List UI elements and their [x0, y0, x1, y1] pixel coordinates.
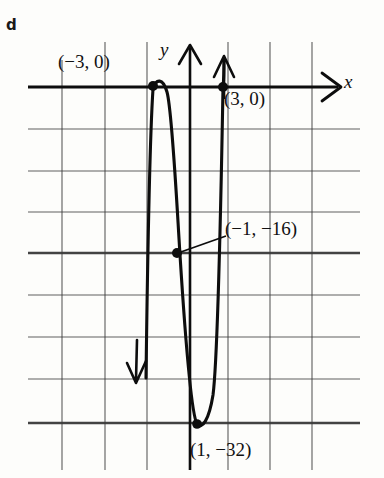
point-label-root-left: (−3, 0): [58, 52, 110, 71]
grid-bold-horizontal-lines: [28, 253, 360, 423]
y-axis-label: y: [160, 40, 168, 59]
marker-minimum: [192, 419, 202, 429]
curve-arrow-down: [127, 340, 146, 383]
point-label-inflection: (−1, −16): [225, 219, 297, 238]
point-label-root-right: (3, 0): [224, 89, 265, 108]
axes: [28, 45, 341, 470]
cubic-curve: [146, 58, 224, 426]
grid-vertical-lines: [62, 42, 312, 470]
part-letter: d: [6, 18, 17, 33]
x-axis-label: x: [344, 72, 352, 91]
graph-figure: d x y (−3, 0) (3, 0) (−1, −16) (1, −32): [0, 0, 384, 478]
marker-inflection: [172, 248, 182, 258]
marker-root-left: [148, 81, 158, 91]
curve-path: [146, 58, 224, 426]
point-label-minimum: (1, −32): [190, 440, 251, 459]
